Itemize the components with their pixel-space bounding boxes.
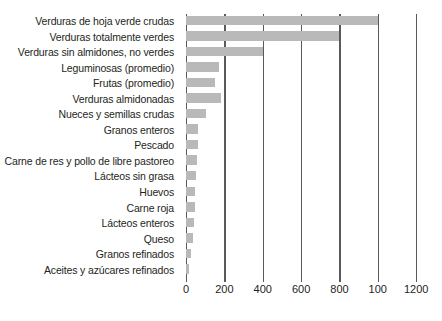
bar	[186, 202, 195, 212]
bar	[186, 155, 197, 165]
x-tick-mark	[301, 278, 302, 282]
category-label: Carne de res y pollo de libre pastoreo	[0, 154, 178, 170]
x-tick-mark	[224, 278, 225, 282]
bar	[186, 47, 263, 57]
bar-row	[186, 185, 420, 201]
category-label: Queso	[0, 232, 178, 248]
x-tick-label: 400	[254, 283, 272, 295]
x-tick-mark	[378, 278, 379, 282]
bar-row	[186, 30, 420, 46]
bar	[186, 78, 215, 88]
category-label: Lácteos enteros	[0, 216, 178, 232]
x-tick-mark	[263, 278, 264, 282]
category-label: Aceites y azúcares refinados	[0, 263, 178, 279]
category-label: Granos enteros	[0, 123, 178, 139]
category-label: Frutas (promedio)	[0, 76, 178, 92]
bar-row	[186, 247, 420, 263]
bar	[186, 109, 206, 119]
x-tick-mark	[416, 278, 417, 282]
category-label: Leguminosas (promedio)	[0, 61, 178, 77]
bar-row	[186, 232, 420, 248]
bar-row	[186, 154, 420, 170]
bar	[186, 124, 198, 134]
bar-row	[186, 263, 420, 279]
bar-row	[186, 61, 420, 77]
category-label: Verduras de hoja verde crudas	[0, 14, 178, 30]
bar	[186, 264, 189, 274]
bar	[186, 233, 193, 243]
horizontal-bar-chart: Verduras de hoja verde crudasVerduras to…	[0, 0, 442, 321]
bar	[186, 140, 198, 150]
x-tick-label: 600	[292, 283, 310, 295]
bar	[186, 218, 194, 228]
bar	[186, 31, 339, 41]
x-tick-label: 0	[183, 283, 189, 295]
bar	[186, 62, 219, 72]
bar-row	[186, 138, 420, 154]
category-label: Granos refinados	[0, 247, 178, 263]
x-tick-mark	[186, 278, 187, 282]
bar-series	[186, 14, 420, 278]
x-tick-label: 800	[330, 283, 348, 295]
bar-row	[186, 201, 420, 217]
category-label: Huevos	[0, 185, 178, 201]
bar	[186, 93, 221, 103]
category-label: Carne roja	[0, 201, 178, 217]
bar-row	[186, 45, 420, 61]
category-label: Verduras totalmente verdes	[0, 30, 178, 46]
x-tick-label: 1200	[404, 283, 428, 295]
category-label: Pescado	[0, 138, 178, 154]
bar-row	[186, 169, 420, 185]
category-label: Lácteos sin grasa	[0, 169, 178, 185]
category-label: Verduras almidonadas	[0, 92, 178, 108]
bar	[186, 16, 378, 26]
bar-row	[186, 216, 420, 232]
bar-row	[186, 76, 420, 92]
x-tick-mark	[339, 278, 340, 282]
x-axis: 02004006008001001200	[186, 278, 420, 310]
category-label: Nueces y semillas crudas	[0, 107, 178, 123]
bar	[186, 187, 195, 197]
bar-row	[186, 92, 420, 108]
x-tick-label: 200	[215, 283, 233, 295]
bar-row	[186, 107, 420, 123]
x-tick-label: 100	[369, 283, 387, 295]
category-label: Verduras sin almidones, no verdes	[0, 45, 178, 61]
bar	[186, 249, 191, 259]
category-label-column: Verduras de hoja verde crudasVerduras to…	[0, 14, 178, 278]
bar	[186, 171, 196, 181]
bar-row	[186, 14, 420, 30]
plot-area	[186, 14, 420, 278]
bar-row	[186, 123, 420, 139]
